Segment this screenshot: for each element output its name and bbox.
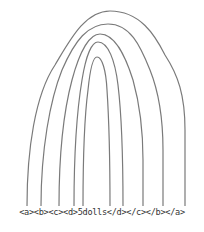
tag-nesting-diagram: <a><b><c><d>5dolls</d></c></b></a>: [0, 0, 204, 232]
arc-d: [74, 42, 123, 206]
tag-sequence-label: <a><b><c><d>5dolls</d></c></b></a>: [0, 207, 204, 217]
arc-diagram: [0, 0, 204, 232]
arc-content: [83, 57, 110, 206]
